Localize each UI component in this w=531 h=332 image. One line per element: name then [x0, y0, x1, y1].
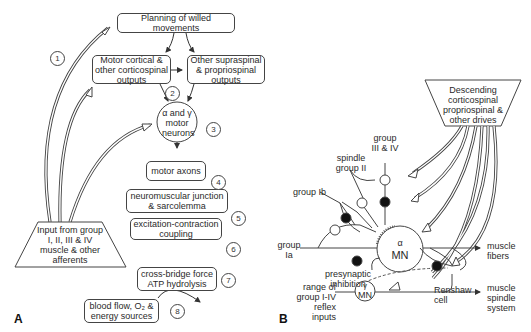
- motor-axons-box: motor axons: [146, 161, 206, 181]
- alpha-mn-symbol: α: [394, 238, 406, 248]
- input-afferents-label: Input from group I, II, III & IV muscle …: [36, 225, 104, 265]
- step-number-1: 1: [50, 51, 65, 66]
- panel-label-a: A: [14, 312, 23, 326]
- step-number-6: 6: [226, 242, 241, 257]
- step-number-4: 4: [211, 175, 226, 190]
- group-ib-label: group Ib: [293, 187, 326, 197]
- gamma-mn-symbol: γ: [359, 282, 371, 290]
- diagram-lines: [0, 0, 531, 332]
- nmj-box: neuromuscular junction & sarcolemma: [126, 189, 228, 213]
- ec-coupling-box: excitation-contraction coupling: [130, 218, 222, 240]
- cross-bridge-box: cross-bridge force ATP hydrolysis: [137, 267, 217, 291]
- renshaw-cell-label: Renshaw cell: [434, 285, 472, 305]
- muscle-spindle-system-label: muscle spindle system: [487, 283, 521, 313]
- group-iii-iv-label: group III & IV: [370, 133, 400, 153]
- blood-flow-box: blood flow, O₂ & energy sources: [84, 299, 159, 323]
- motor-cortical-box: Motor cortical & other corticospinal out…: [92, 55, 171, 84]
- gamma-mn-label: MN: [355, 290, 375, 300]
- alpha-mn-label: MN: [387, 249, 413, 261]
- spindle-group-ii-label: spindle group II: [331, 153, 371, 173]
- step-number-7: 7: [221, 273, 236, 288]
- step-number-3: 3: [206, 122, 221, 137]
- range-inputs-label: range of group I-IV reflex inputs: [288, 282, 336, 322]
- other-supraspinal-box: Other supraspinal & propriospinal output…: [187, 55, 265, 84]
- group-ia-label: group Ia: [276, 240, 302, 260]
- motor-neurons-label: α and γ motor neurons: [162, 108, 192, 138]
- planning-box: Planning of willed movements: [117, 13, 235, 33]
- panel-label-b: B: [279, 312, 288, 326]
- descending-drives-label: Descending corticospinal propriospinal &…: [441, 85, 505, 125]
- muscle-fibers-label: muscle fibers: [487, 241, 517, 261]
- step-number-5: 5: [231, 211, 246, 226]
- step-number-2: 2: [165, 86, 180, 101]
- step-number-8: 8: [170, 304, 185, 319]
